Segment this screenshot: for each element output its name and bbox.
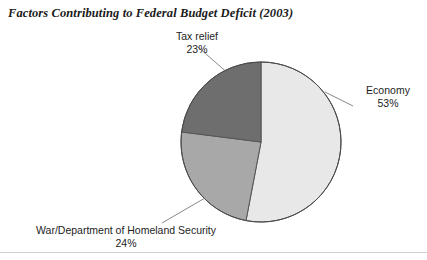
- pie-label-war-dhs: War/Department of Homeland Security 24%: [32, 224, 220, 249]
- pie-label-economy: Economy 53%: [355, 84, 421, 109]
- pie-label-war-dhs-name: War/Department of Homeland Security: [36, 224, 216, 236]
- pie-label-tax-relief-name: Tax relief: [176, 30, 218, 42]
- pie-label-tax-relief-value: 23%: [150, 43, 244, 56]
- pie-label-tax-relief: Tax relief 23%: [150, 30, 244, 55]
- pie-slice-tax-relief[interactable]: [182, 62, 261, 142]
- pie-label-war-dhs-value: 24%: [32, 237, 220, 250]
- chart-figure: Factors Contributing to Federal Budget D…: [0, 0, 427, 260]
- pie-label-economy-value: 53%: [355, 97, 421, 110]
- leader-line-war-dhs: [162, 198, 205, 223]
- pie-slice-war-dhs[interactable]: [181, 132, 261, 221]
- footer-artifact-text: [60, 253, 390, 260]
- pie-label-economy-name: Economy: [366, 84, 410, 96]
